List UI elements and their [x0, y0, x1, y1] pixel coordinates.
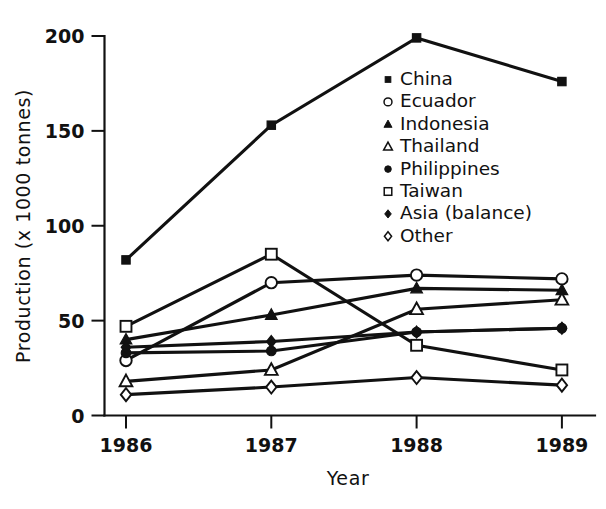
- legend-label: Ecuador: [400, 90, 476, 111]
- x-tick-label: 1988: [390, 434, 443, 456]
- y-axis-title: Production (x 1000 tonnes): [12, 89, 34, 363]
- series-markers-indonesia: [120, 282, 568, 344]
- data-point: [121, 388, 131, 401]
- data-point: [266, 277, 277, 288]
- legend-item-thailand: Thailand: [384, 135, 480, 156]
- data-point: [556, 273, 567, 284]
- legend-label: Thailand: [399, 135, 479, 156]
- data-point: [267, 121, 275, 129]
- series-markers-china: [122, 34, 566, 264]
- y-axis-tick-labels: 050100150200: [45, 25, 85, 427]
- legend-item-other: Other: [384, 225, 453, 246]
- data-point: [412, 34, 420, 42]
- data-point: [411, 269, 422, 280]
- legend-label: China: [400, 68, 453, 89]
- data-point: [266, 381, 276, 394]
- chart-legend: ChinaEcuadorIndonesiaThailandPhilippines…: [384, 68, 532, 246]
- legend-label: Asia (balance): [400, 202, 532, 223]
- legend-marker-open-square-icon: [384, 188, 392, 196]
- data-point: [411, 371, 421, 384]
- axes-group: [92, 36, 596, 429]
- chart-canvas: 050100150200 1986198719881989 Production…: [0, 0, 606, 509]
- legend-item-philippines: Philippines: [385, 158, 500, 179]
- x-axis-ticks: [126, 416, 562, 429]
- x-tick-label: 1987: [245, 434, 298, 456]
- legend-marker-filled-triangle-icon: [384, 120, 392, 127]
- legend-item-taiwan: Taiwan: [384, 180, 463, 201]
- legend-item-china: China: [385, 68, 453, 89]
- data-point: [556, 365, 567, 376]
- series-markers-taiwan: [121, 249, 568, 376]
- data-point: [121, 321, 132, 332]
- legend-marker-open-circle-icon: [384, 98, 392, 106]
- series-line-other: [126, 378, 562, 395]
- legend-label: Other: [400, 225, 453, 246]
- y-tick-label: 0: [71, 405, 84, 427]
- data-point: [411, 340, 422, 351]
- x-tick-label: 1986: [100, 434, 153, 456]
- x-tick-label: 1989: [535, 434, 588, 456]
- y-tick-label: 100: [45, 215, 85, 237]
- y-tick-label: 150: [45, 120, 85, 142]
- data-point: [557, 379, 567, 392]
- legend-item-ecuador: Ecuador: [384, 90, 476, 111]
- y-tick-label: 200: [45, 25, 85, 47]
- line-chart: 050100150200 1986198719881989 Production…: [0, 0, 606, 509]
- series-line-indonesia: [126, 288, 562, 339]
- y-axis-ticks: [92, 36, 105, 416]
- y-tick-label: 50: [58, 310, 84, 332]
- legend-marker-open-diamond-icon: [384, 232, 391, 241]
- legend-label: Taiwan: [399, 180, 463, 201]
- legend-marker-filled-diamond-icon: [385, 210, 392, 218]
- legend-item-asia-balance: Asia (balance): [385, 202, 532, 223]
- legend-marker-filled-square-icon: [385, 77, 391, 83]
- legend-marker-filled-circle-icon: [385, 166, 392, 173]
- x-axis-tick-labels: 1986198719881989: [100, 434, 589, 456]
- data-point: [558, 77, 566, 85]
- data-point: [122, 256, 130, 264]
- data-point: [266, 249, 277, 260]
- data-point: [267, 336, 277, 348]
- legend-marker-open-triangle-icon: [384, 142, 393, 150]
- series-line-china: [126, 38, 562, 260]
- x-axis-title: Year: [326, 467, 370, 489]
- legend-item-indonesia: Indonesia: [384, 113, 490, 134]
- series-line-philippines: [126, 328, 562, 353]
- legend-label: Philippines: [400, 158, 500, 179]
- legend-label: Indonesia: [400, 113, 489, 134]
- series-line-asia-balance: [126, 328, 562, 347]
